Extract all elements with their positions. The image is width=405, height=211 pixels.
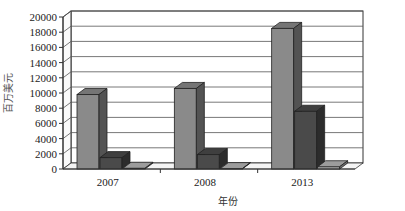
y-tick-label: 20000: [30, 11, 58, 23]
y-tick-label: 10000: [30, 87, 58, 99]
x-tick-label: 2008: [194, 176, 217, 188]
y-axis-label: 百万美元: [2, 73, 14, 113]
y-tick-label: 12000: [30, 72, 58, 84]
y-tick-label: 14000: [30, 57, 58, 69]
x-tick-label: 2013: [291, 176, 314, 188]
y-axis: 0200040006000800010000120001400016000180…: [30, 11, 64, 175]
x-axis: 200720082013: [63, 169, 355, 188]
x-axis-label: 年份: [218, 195, 238, 207]
y-tick-label: 18000: [30, 26, 58, 38]
y-tick-label: 4000: [35, 133, 58, 145]
y-tick-label: 16000: [30, 41, 58, 53]
y-tick-label: 8000: [35, 102, 58, 114]
y-tick-label: 6000: [35, 117, 58, 129]
bar-chart: 0200040006000800010000120001400016000180…: [0, 0, 405, 211]
bar-2013-2: [295, 105, 325, 169]
bar-2008-2: [197, 149, 227, 169]
x-tick-label: 2007: [97, 176, 120, 188]
y-tick-label: 0: [52, 163, 58, 175]
y-tick-label: 2000: [35, 148, 58, 160]
